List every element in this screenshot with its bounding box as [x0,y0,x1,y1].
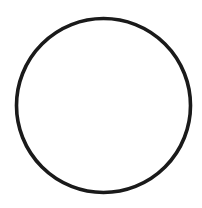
diagram-canvas [0,0,202,208]
diagram-svg [0,0,202,208]
circle-outline [17,19,191,193]
